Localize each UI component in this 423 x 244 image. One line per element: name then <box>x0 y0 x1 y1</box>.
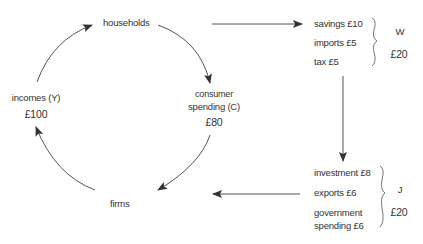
injection-item: government <box>314 207 362 219</box>
firms-label: firms <box>110 198 130 210</box>
injection-item: exports £6 <box>314 187 356 199</box>
withdrawals-symbol: W <box>388 26 412 38</box>
arc-arrow-firms-to-incomes <box>36 127 95 190</box>
injections-total: £20 <box>384 206 414 218</box>
consumer-spending-label-1: consumer <box>182 88 246 100</box>
arc-arrow-households-to-consumer <box>158 25 210 83</box>
injections-symbol: J <box>388 184 412 196</box>
incomes-label: incomes (Y) <box>10 92 62 104</box>
withdrawal-item: imports £5 <box>314 37 356 49</box>
withdrawal-item: tax £5 <box>314 56 339 68</box>
brace-withdrawals <box>372 18 377 66</box>
injection-item: spending £6 <box>314 220 364 232</box>
consumer-spending-value: £80 <box>182 116 246 128</box>
arc-arrow-consumer-to-firms <box>158 135 210 190</box>
injection-item: investment £8 <box>314 167 371 179</box>
consumer-spending-label-2: spending (C) <box>182 101 246 113</box>
households-label: households <box>103 17 150 29</box>
withdrawal-item: savings £10 <box>314 18 363 30</box>
arc-arrow-incomes-to-households <box>37 25 92 82</box>
withdrawals-total: £20 <box>384 48 414 60</box>
incomes-value: £100 <box>10 108 62 120</box>
